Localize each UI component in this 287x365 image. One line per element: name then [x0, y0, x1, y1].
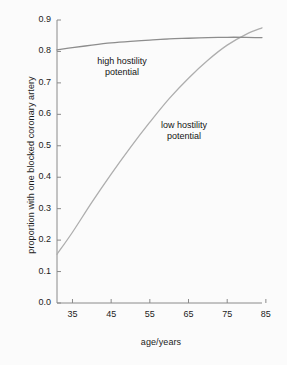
low-hostility-annotation: low hostility potential: [146, 120, 222, 142]
low-hostility-annotation-line1: low hostility: [146, 120, 222, 131]
high-hostility-annotation: high hostility potential: [84, 56, 160, 78]
y-tick-label: 0.5: [23, 140, 51, 150]
y-tick-label: 0.6: [23, 108, 51, 118]
x-tick-label: 35: [57, 309, 87, 319]
y-tick-label: 0.1: [23, 266, 51, 276]
high-hostility-annotation-line2: potential: [84, 67, 160, 78]
y-tick-label: 0.7: [23, 77, 51, 87]
y-tick-label: 0.4: [23, 171, 51, 181]
low-hostility-annotation-line2: potential: [146, 131, 222, 142]
y-tick-label: 0.8: [23, 45, 51, 55]
x-tick-label: 65: [174, 309, 204, 319]
x-tick-label: 75: [212, 309, 242, 319]
chart-figure: proportion with one blocked coronary art…: [0, 0, 287, 365]
x-tick-label: 55: [135, 309, 165, 319]
y-tick-label: 0.3: [23, 203, 51, 213]
y-tick-label: 0.9: [23, 14, 51, 24]
x-axis-title: age/years: [58, 337, 264, 347]
y-tick-label: 0.0: [23, 297, 51, 307]
y-tick-label: 0.2: [23, 234, 51, 244]
high-hostility-annotation-line1: high hostility: [84, 56, 160, 67]
x-tick-label: 45: [96, 309, 126, 319]
x-tick-label: 85: [251, 309, 281, 319]
